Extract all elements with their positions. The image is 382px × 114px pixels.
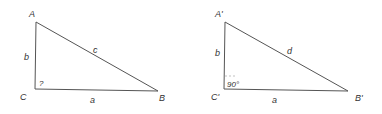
vertex-c-label: C (20, 92, 27, 102)
side-b-label: b (24, 52, 29, 62)
triangle-a-b-c-prime (224, 22, 348, 91)
vertex-c-prime-label: C' (211, 92, 219, 102)
vertex-b-prime-label: B' (355, 93, 363, 103)
angle-c-prime-label: 90° (227, 80, 240, 89)
triangle-abc (35, 22, 158, 91)
left-triangle: A C B b c a ? (20, 9, 165, 105)
side-d-label: d (287, 46, 293, 56)
side-c-label: c (93, 45, 98, 55)
vertex-a-prime-label: A' (214, 9, 223, 19)
triangles-diagram: A C B b c a ? A' C' B' b d a 90° (0, 0, 382, 114)
angle-c-label: ? (39, 79, 44, 88)
side-b-label-2: b (215, 48, 220, 58)
right-triangle: A' C' B' b d a 90° (211, 9, 363, 105)
vertex-a-label: A (28, 9, 35, 19)
side-a-label-2: a (272, 95, 277, 105)
side-a-label: a (90, 95, 95, 105)
vertex-b-label: B (159, 93, 165, 103)
